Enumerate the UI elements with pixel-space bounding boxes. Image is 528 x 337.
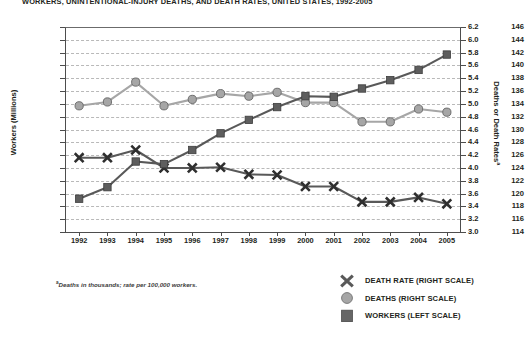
x-axis-tick-label: 2002 [354, 237, 370, 244]
left-axis-tick-label: 142 [511, 49, 524, 57]
x-axis-tick-label: 2000 [297, 237, 313, 244]
x-axis-tick-mark [362, 232, 363, 236]
x-axis-tick-label: 1997 [212, 237, 228, 244]
right-axis-tick-label: 5.2 [468, 87, 479, 95]
right-axis-tick-label: 5.0 [468, 100, 479, 108]
right-axis-title: Deaths or Death Ratesa [492, 53, 503, 193]
x-axis-tick-mark [390, 232, 391, 236]
left-axis-tick-label: 118 [512, 203, 524, 211]
grid-line [66, 91, 460, 92]
grid-line [66, 194, 460, 195]
grid-line [66, 53, 460, 54]
right-axis-tick-label: 3.4 [468, 203, 479, 211]
legend-item[interactable]: WORKERS (LEFT SCALE) [338, 307, 528, 325]
x-axis-tick-mark [164, 232, 165, 236]
left-axis-tick-label: 120 [511, 190, 524, 198]
left-axis-tick-mark [60, 117, 65, 118]
left-axis-tick-mark [60, 181, 65, 182]
right-axis-tick-label: 3.6 [468, 190, 479, 198]
left-axis-tick-mark [60, 78, 65, 79]
left-axis-tick-label: 140 [511, 62, 524, 70]
x-axis-tick-mark [277, 232, 278, 236]
legend-item[interactable]: DEATH RATE (RIGHT SCALE) [338, 272, 528, 290]
x-axis-tick-label: 1994 [127, 237, 143, 244]
x-axis-tick-label: 1999 [269, 237, 285, 244]
chart-title: WORKERS, UNINTENTIONAL-INJURY DEATHS, AN… [22, 0, 372, 6]
right-axis-tick-mark [461, 142, 466, 143]
right-axis-tick-label: 5.4 [468, 74, 479, 82]
left-axis-tick-mark [60, 232, 65, 233]
square-marker-icon [338, 309, 356, 323]
left-axis-tick-mark [60, 168, 65, 169]
left-axis-tick-mark [60, 194, 65, 195]
right-axis-tick-label: 4.2 [468, 151, 479, 159]
legend-label: DEATHS (RIGHT SCALE) [365, 294, 456, 303]
right-axis-tick-label: 6.0 [468, 36, 479, 44]
grid-line [66, 104, 460, 105]
right-axis-tick-mark [461, 91, 466, 92]
grid-line [66, 65, 460, 66]
left-axis-tick-label: 144 [511, 36, 524, 44]
grid-line [66, 78, 460, 79]
right-axis-title-text: Deaths or Death Rates [492, 81, 501, 162]
left-axis-tick-label: 146 [511, 23, 524, 31]
x-axis-tick-mark [419, 232, 420, 236]
x-axis-tick-label: 1992 [71, 237, 87, 244]
footnote-text: Deaths in thousands; rate per 100,000 wo… [59, 281, 198, 288]
right-axis-tick-mark [461, 168, 466, 169]
right-axis-tick-mark [461, 117, 466, 118]
x-axis-tick-label: 1998 [241, 237, 257, 244]
left-axis-tick-label: 130 [511, 126, 524, 134]
x-axis-tick-mark [447, 232, 448, 236]
right-axis-tick-label: 6.2 [468, 23, 479, 31]
right-axis-tick-label: 4.8 [468, 113, 479, 121]
x-axis-tick-mark [221, 232, 222, 236]
x-axis-tick-label: 2005 [439, 237, 455, 244]
right-axis-tick-mark [461, 78, 466, 79]
chart-legend: DEATH RATE (RIGHT SCALE)DEATHS (RIGHT SC… [338, 272, 528, 325]
right-axis-title-marker: a [496, 162, 502, 165]
x-axis-tick-label: 2001 [325, 237, 341, 244]
left-axis-tick-label: 138 [511, 74, 524, 82]
x-axis-tick-label: 2003 [382, 237, 398, 244]
x-marker-icon [338, 274, 356, 288]
left-axis-tick-mark [60, 206, 65, 207]
grid-line [66, 142, 460, 143]
right-axis-tick-mark [461, 40, 466, 41]
x-axis-tick-mark [79, 232, 80, 236]
legend-label: WORKERS (LEFT SCALE) [365, 311, 461, 320]
grid-line [66, 117, 460, 118]
x-axis-tick-mark [334, 232, 335, 236]
left-axis-tick-label: 128 [511, 139, 524, 147]
plot-area [65, 27, 461, 232]
right-axis-tick-mark [461, 104, 466, 105]
left-axis-tick-label: 134 [511, 100, 524, 108]
legend-label: DEATH RATE (RIGHT SCALE) [365, 276, 474, 285]
right-axis-tick-mark [461, 53, 466, 54]
right-axis-tick-label: 4.6 [468, 126, 479, 134]
x-axis-tick-mark [192, 232, 193, 236]
x-axis-tick-label: 1993 [99, 237, 115, 244]
right-axis-tick-label: 4.4 [468, 139, 479, 147]
right-axis-tick-mark [461, 155, 466, 156]
right-axis-tick-label: 3.2 [468, 215, 479, 223]
left-axis-tick-mark [60, 53, 65, 54]
left-axis-tick-mark [60, 40, 65, 41]
grid-line [66, 219, 460, 220]
left-axis-tick-mark [60, 65, 65, 66]
legend-item[interactable]: DEATHS (RIGHT SCALE) [338, 290, 528, 308]
chart-root: WORKERS, UNINTENTIONAL-INJURY DEATHS, AN… [0, 0, 528, 337]
grid-line [66, 40, 460, 41]
x-axis-line [65, 232, 461, 233]
x-axis-tick-mark [136, 232, 137, 236]
right-axis-tick-mark [461, 219, 466, 220]
left-axis-tick-label: 136 [511, 87, 524, 95]
right-axis-tick-mark [461, 206, 466, 207]
grid-line [66, 130, 460, 131]
right-axis-tick-label: 3.0 [468, 228, 479, 236]
right-axis-tick-label: 5.6 [468, 62, 479, 70]
grid-line [66, 168, 460, 169]
left-axis-tick-mark [60, 219, 65, 220]
right-axis-tick-mark [461, 130, 466, 131]
left-axis-tick-mark [60, 155, 65, 156]
